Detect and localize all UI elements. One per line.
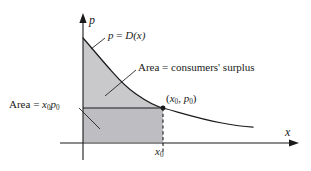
x-axis-arrowhead <box>289 139 299 146</box>
curve-equation-d: D <box>125 29 133 41</box>
equilibrium-point-label: (x0, p0) <box>166 93 196 106</box>
x-axis-label: x <box>285 126 290 138</box>
curve-equation-label: p = D(x) <box>108 30 145 41</box>
curve-equation-arg: (x) <box>133 29 145 41</box>
consumers-surplus-region <box>83 38 163 108</box>
point-comma: , <box>178 92 181 104</box>
expenditure-area-label: Area = x0p0 <box>9 99 60 112</box>
rect-area-equals: = <box>33 98 39 110</box>
x0-tick-subscript: 0 <box>160 151 164 159</box>
curve-equation-leader-line <box>91 38 105 49</box>
p-axis-arrowhead <box>79 13 86 23</box>
expenditure-rectangle-region <box>83 108 163 142</box>
equilibrium-point-marker <box>161 106 166 111</box>
rect-area-word: Area <box>9 98 30 110</box>
curve-equation-p: p <box>108 29 114 41</box>
rect-area-p-subscript: 0 <box>56 104 60 112</box>
consumer-surplus-figure: p x p = D(x) Area = consumers' surplus A… <box>0 0 311 171</box>
x0-tick-label: x0 <box>155 146 164 159</box>
point-close-paren: ) <box>193 92 197 104</box>
curve-equation-equals: = <box>116 29 122 41</box>
consumers-surplus-label: Area = consumers' surplus <box>138 62 255 73</box>
p-axis-label: p <box>89 14 95 26</box>
